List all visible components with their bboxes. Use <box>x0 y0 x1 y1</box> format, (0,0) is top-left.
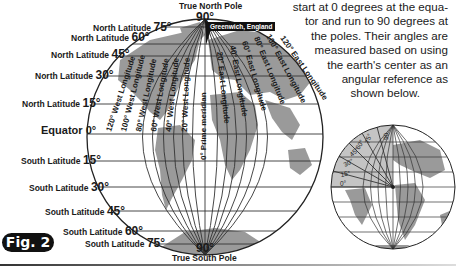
lat-s30: South Latitude 30° <box>29 180 109 194</box>
south-pole-label: True South Pole <box>172 253 237 263</box>
lat-n45: North Latitude 45° <box>51 47 130 61</box>
lat-s45: South Latitude 45° <box>45 204 125 218</box>
lat-n60: North Latitude 60° <box>71 30 150 44</box>
lat-s75: South Latitude 75° <box>85 236 165 250</box>
figure-badge: Fig. 2 <box>2 233 54 252</box>
lat-n30: North Latitude 30° <box>35 68 114 82</box>
lat-equator: Equator 0° <box>41 124 96 136</box>
explanation-paragraph: start at 0 degrees at the equa- tor and … <box>236 0 448 101</box>
prime-meridian-label: 0° Prime meridian <box>199 92 208 160</box>
divider <box>0 264 456 266</box>
svg-text:0°: 0° <box>340 180 347 187</box>
svg-text:90: 90 <box>382 132 389 140</box>
lat-n15: North Latitude 15° <box>22 96 101 110</box>
lat-s15: South Latitude 15° <box>21 153 101 167</box>
